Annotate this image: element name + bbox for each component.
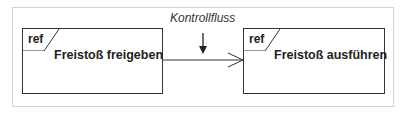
node-title: Freistoß freigeben	[54, 48, 163, 62]
ref-box-right: ref Freistoß ausführen	[243, 28, 385, 94]
ref-tag-label: ref	[249, 32, 264, 46]
annotation-arrow-icon	[199, 46, 207, 54]
node-title: Freistoß ausführen	[274, 48, 387, 62]
ref-box-left: ref Freistoß freigeben	[22, 28, 163, 94]
ref-tag-label: ref	[28, 32, 43, 46]
control-flow-label: Kontrollfluss	[170, 11, 235, 25]
